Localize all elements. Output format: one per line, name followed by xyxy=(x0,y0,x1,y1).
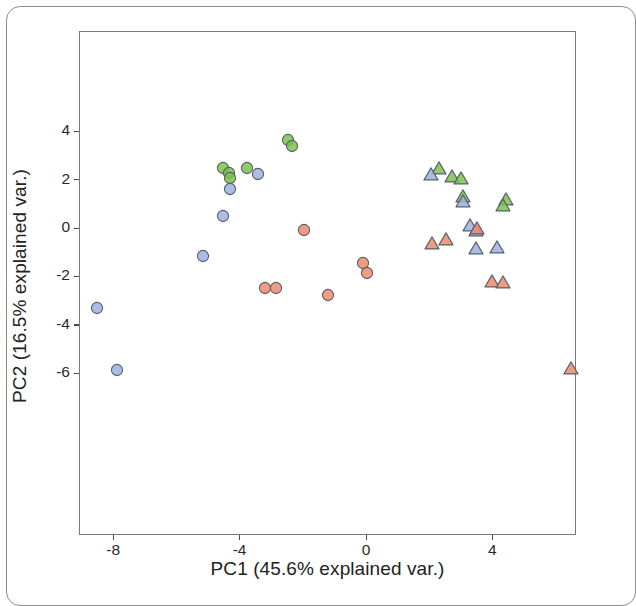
x-tick-mark xyxy=(492,535,493,540)
data-point-blue-triangle xyxy=(423,166,439,181)
x-tick-mark xyxy=(113,535,114,540)
y-tick-label: -6 xyxy=(0,363,70,381)
data-point-orange-triangle xyxy=(563,361,579,376)
data-point-orange-triangle xyxy=(438,232,454,247)
data-point-green-circle xyxy=(285,139,299,153)
data-point-blue-circle xyxy=(110,363,124,377)
x-tick-label: -4 xyxy=(233,541,247,559)
data-point-orange-circle xyxy=(360,266,374,280)
y-tick-label: 0 xyxy=(0,218,70,236)
x-tick-label: 0 xyxy=(362,541,371,559)
data-point-blue-circle xyxy=(251,167,265,181)
data-point-blue-circle xyxy=(223,182,237,196)
x-tick-mark xyxy=(366,535,367,540)
data-point-green-triangle xyxy=(495,198,511,213)
data-point-blue-circle xyxy=(196,249,210,263)
x-tick-label: -8 xyxy=(106,541,120,559)
x-tick-mark xyxy=(239,535,240,540)
data-point-blue-triangle xyxy=(468,241,484,256)
y-tick-label: -4 xyxy=(0,315,70,333)
x-tick-label: 4 xyxy=(488,541,497,559)
data-point-blue-circle xyxy=(90,301,104,315)
data-point-blue-triangle xyxy=(489,240,505,255)
data-point-orange-circle xyxy=(297,223,311,237)
y-tick-mark xyxy=(74,276,79,277)
y-tick-label: 4 xyxy=(0,121,70,139)
y-tick-mark xyxy=(74,228,79,229)
data-point-orange-triangle xyxy=(495,275,511,290)
y-tick-mark xyxy=(74,179,79,180)
data-point-orange-triangle xyxy=(469,221,485,236)
y-tick-mark xyxy=(74,131,79,132)
data-point-blue-circle xyxy=(216,209,230,223)
y-tick-mark xyxy=(74,324,79,325)
data-point-orange-circle xyxy=(269,281,283,295)
data-point-orange-circle xyxy=(321,288,335,302)
data-point-green-triangle xyxy=(453,171,469,186)
y-tick-label: -2 xyxy=(0,266,70,284)
y-tick-mark xyxy=(74,373,79,374)
data-point-blue-triangle xyxy=(455,194,471,209)
x-axis-title: PC1 (45.6% explained var.) xyxy=(79,558,576,580)
y-tick-label: 2 xyxy=(0,170,70,188)
